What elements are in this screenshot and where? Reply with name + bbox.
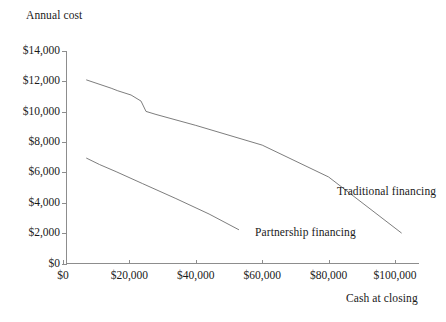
series-label-partnership-financing: Partnership financing xyxy=(255,226,356,238)
data-series xyxy=(86,80,401,233)
series-line-traditional-financing xyxy=(86,80,401,233)
series-label-traditional-financing: Traditional financing xyxy=(337,185,436,197)
series-line-partnership-financing xyxy=(86,158,239,230)
axis-lines xyxy=(67,51,420,264)
x-axis-tick-marks xyxy=(64,260,396,264)
y-axis-tick-marks xyxy=(62,52,67,265)
plot-area xyxy=(0,0,446,322)
chart-figure: Annual cost Cash at closing $0$2,000$4,0… xyxy=(0,0,446,322)
